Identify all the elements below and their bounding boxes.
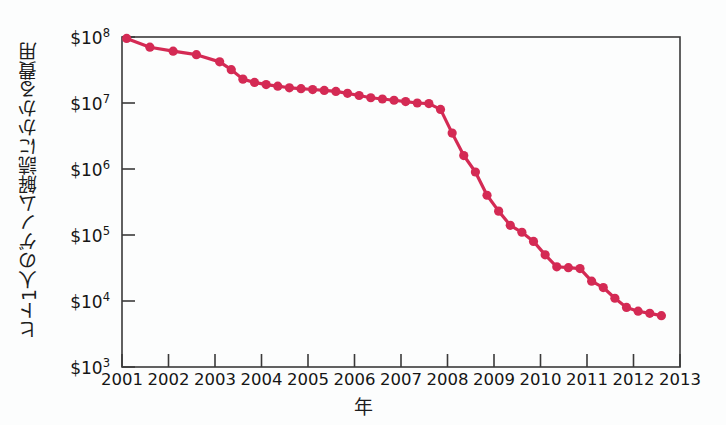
data-point-marker [355, 91, 364, 100]
data-line [127, 38, 662, 315]
data-point-marker [482, 191, 491, 200]
data-point-marker [285, 83, 294, 92]
data-point-marker [389, 96, 398, 105]
plot-area [0, 0, 726, 425]
data-point-marker [122, 34, 131, 43]
data-point-marker [296, 84, 305, 93]
data-point-marker [459, 151, 468, 160]
data-point-marker [552, 262, 561, 271]
data-point-marker [320, 86, 329, 95]
data-point-marker [192, 50, 201, 59]
genome-sequencing-cost-chart: ヒト1人のゲノム解読にかかる費用 年 $108$107$106$105$104$… [0, 0, 726, 425]
data-point-marker [401, 97, 410, 106]
data-point-marker [436, 105, 445, 114]
data-point-marker [634, 307, 643, 316]
data-point-marker [262, 80, 271, 89]
data-point-marker [366, 93, 375, 102]
data-point-marker [575, 264, 584, 273]
data-point-marker [448, 128, 457, 137]
data-point-marker [227, 65, 236, 74]
data-point-marker [145, 43, 154, 52]
data-point-marker [541, 250, 550, 259]
data-point-marker [506, 221, 515, 230]
data-point-marker [494, 207, 503, 216]
data-point-marker [378, 94, 387, 103]
data-point-marker [424, 99, 433, 108]
data-point-marker [610, 294, 619, 303]
data-point-marker [599, 283, 608, 292]
data-point-marker [169, 47, 178, 56]
data-point-marker [331, 87, 340, 96]
data-point-marker [622, 303, 631, 312]
data-point-marker [657, 311, 666, 320]
data-point-marker [587, 277, 596, 286]
data-point-marker [238, 75, 247, 84]
axis-frame [122, 37, 680, 367]
data-point-marker [645, 309, 654, 318]
data-point-marker [215, 57, 224, 66]
data-point-marker [471, 167, 480, 176]
data-point-marker [529, 237, 538, 246]
data-point-marker [413, 98, 422, 107]
data-point-marker [517, 228, 526, 237]
data-point-marker [250, 78, 259, 87]
data-point-marker [343, 89, 352, 98]
data-point-marker [273, 82, 282, 91]
data-point-marker [564, 263, 573, 272]
data-point-marker [308, 85, 317, 94]
